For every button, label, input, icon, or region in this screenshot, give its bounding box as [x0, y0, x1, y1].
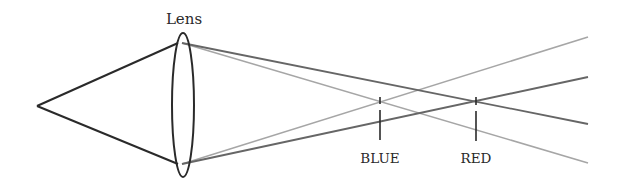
incoming-ray-bottom — [37, 106, 178, 164]
lens-shape — [172, 33, 194, 177]
incoming-ray-top — [37, 43, 178, 106]
chromatic-aberration-diagram: Lens BLUE RED — [0, 0, 622, 188]
red-ray-top — [182, 43, 588, 124]
lens-label: Lens — [166, 10, 202, 28]
blue-focus-label: BLUE — [360, 150, 399, 166]
incoming-rays — [37, 43, 178, 164]
red-focus-label: RED — [461, 150, 492, 166]
